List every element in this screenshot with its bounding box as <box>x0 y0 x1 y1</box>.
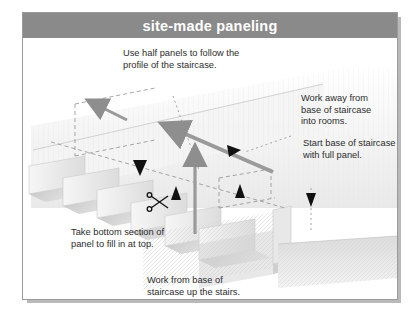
page-root: site-made paneling <box>0 0 419 314</box>
floor-strip <box>278 236 397 288</box>
callout-right-upper: Work away from base of staircase into ro… <box>301 93 371 128</box>
title-bar: site-made paneling <box>23 13 397 38</box>
callout-right-lower: Start base of staircase with full panel. <box>303 138 396 161</box>
callout-bottom: Work from base of staircase up the stair… <box>147 275 240 298</box>
illustration-card: site-made paneling <box>22 12 398 300</box>
card-shadow-bottom <box>27 300 401 303</box>
page-title: site-made paneling <box>143 18 278 34</box>
card-shadow-right <box>398 17 401 303</box>
callout-top: Use half panels to follow the profile of… <box>123 48 239 71</box>
staircase-diagram-svg <box>23 38 397 299</box>
illustration-stage <box>23 38 397 299</box>
callout-left-lower: Take bottom section of panel to fill in … <box>71 227 164 250</box>
